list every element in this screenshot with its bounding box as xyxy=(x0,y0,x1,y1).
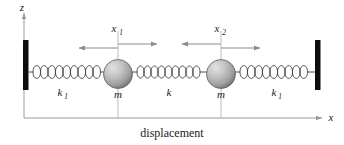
label-k1-right: k 1 xyxy=(272,86,282,101)
wall-right xyxy=(315,40,321,90)
label-x2-subscript: 2 xyxy=(222,28,226,37)
figure-caption: displacement xyxy=(140,126,204,140)
label-k-middle: k xyxy=(167,86,173,98)
label-k1-left: k 1 xyxy=(58,86,68,101)
middle-spring xyxy=(132,66,208,78)
axis-group xyxy=(24,13,322,118)
diagram-canvas: z x xyxy=(0,0,344,145)
label-x1-subscript: 1 xyxy=(119,28,123,37)
x-axis-label: x xyxy=(328,111,334,123)
label-k1-left-subscript: 1 xyxy=(64,92,68,101)
right-spring xyxy=(235,66,315,79)
wall-left xyxy=(23,40,29,90)
label-k-middle-base: k xyxy=(167,86,173,98)
label-k1-right-base: k xyxy=(272,86,278,98)
mass-right xyxy=(207,60,236,89)
label-mass-left: m xyxy=(114,88,122,100)
mass-left xyxy=(104,60,133,89)
label-k1-left-base: k xyxy=(58,86,64,98)
physics-diagram-coupled-oscillators: z x xyxy=(0,0,344,145)
label-x2-base: x xyxy=(214,22,220,34)
left-spring xyxy=(29,66,106,79)
z-axis-label: z xyxy=(19,1,25,13)
label-x2: x 2 xyxy=(214,22,227,37)
label-x1-base: x xyxy=(111,22,117,34)
label-mass-right: m xyxy=(217,88,225,100)
label-k1-right-subscript: 1 xyxy=(278,92,282,101)
label-x1: x 1 xyxy=(111,22,123,37)
